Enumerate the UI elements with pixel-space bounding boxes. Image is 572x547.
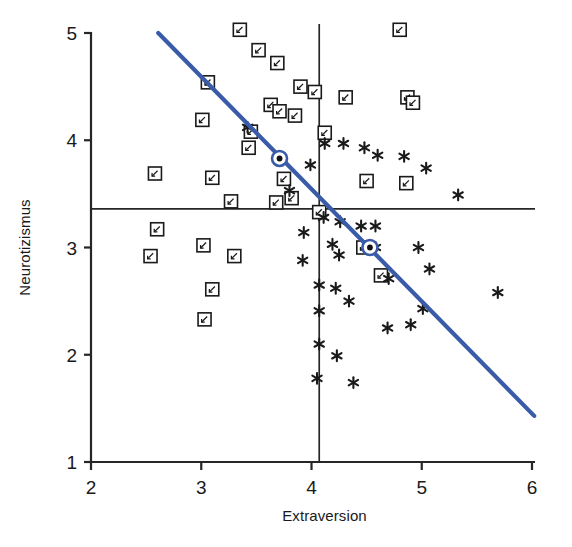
data-point-asterisk bbox=[383, 323, 392, 334]
data-point-square bbox=[197, 239, 210, 252]
highlight-dot bbox=[367, 245, 373, 251]
data-point-asterisk bbox=[356, 221, 365, 232]
data-point-asterisk bbox=[360, 142, 369, 153]
x-tick-label-3: 3 bbox=[196, 477, 207, 498]
y-tick-label-3: 3 bbox=[66, 238, 77, 259]
data-point-asterisk bbox=[349, 377, 358, 388]
plot-canvas: 1234523456 ExtraversionNeurotizismus bbox=[0, 0, 572, 547]
data-point-square bbox=[252, 44, 265, 57]
data-point-asterisk bbox=[315, 305, 324, 316]
y-axis-title: Neurotizismus bbox=[16, 199, 33, 295]
data-point-square bbox=[400, 177, 413, 190]
x-axis-title: Extraversion bbox=[282, 507, 367, 524]
data-point-square bbox=[285, 192, 298, 205]
y-tick-label-4: 4 bbox=[66, 130, 77, 151]
data-point-asterisk bbox=[332, 350, 341, 361]
data-point-asterisk bbox=[421, 163, 430, 174]
data-point-square bbox=[273, 105, 286, 118]
data-point-square bbox=[339, 91, 352, 104]
data-point-asterisk bbox=[339, 138, 348, 149]
data-point-asterisk bbox=[334, 250, 343, 261]
data-point-square bbox=[393, 23, 406, 36]
data-point-asterisk bbox=[453, 190, 462, 201]
data-point-square bbox=[233, 23, 246, 36]
scatter-chart: 1234523456 ExtraversionNeurotizismus bbox=[0, 0, 572, 547]
data-point-square bbox=[206, 171, 219, 184]
data-point-square bbox=[228, 250, 241, 263]
data-point-asterisk bbox=[306, 160, 315, 171]
data-point-square bbox=[271, 57, 284, 70]
data-point-square bbox=[144, 250, 157, 263]
data-point-asterisk bbox=[298, 255, 307, 266]
data-point-asterisk bbox=[315, 339, 324, 350]
data-point-square bbox=[148, 167, 161, 180]
data-point-square bbox=[406, 96, 419, 109]
data-point-square bbox=[360, 175, 373, 188]
data-point-asterisk bbox=[371, 221, 380, 232]
y-tick-label-2: 2 bbox=[66, 345, 77, 366]
data-point-asterisk bbox=[344, 296, 353, 307]
x-tick-label-2: 2 bbox=[86, 477, 97, 498]
data-point-asterisk bbox=[315, 280, 324, 291]
data-point-square bbox=[308, 85, 321, 98]
highlight-dot bbox=[277, 156, 283, 162]
data-point-asterisk bbox=[414, 242, 423, 253]
data-point-asterisk bbox=[493, 287, 502, 298]
data-point-square bbox=[294, 80, 307, 93]
data-point-square bbox=[151, 223, 164, 236]
data-point-square bbox=[225, 195, 238, 208]
data-points-layer bbox=[144, 23, 502, 388]
x-tick-label-6: 6 bbox=[527, 477, 538, 498]
data-point-asterisk bbox=[312, 373, 321, 384]
data-point-asterisk bbox=[299, 227, 308, 238]
data-point-square bbox=[242, 141, 255, 154]
data-point-asterisk bbox=[406, 319, 415, 330]
data-point-square bbox=[206, 283, 219, 296]
data-point-asterisk bbox=[399, 151, 408, 162]
data-point-square bbox=[277, 172, 290, 185]
x-tick-label-5: 5 bbox=[416, 477, 427, 498]
data-point-square bbox=[198, 313, 211, 326]
data-point-asterisk bbox=[331, 283, 340, 294]
data-point-asterisk bbox=[373, 150, 382, 161]
x-tick-label-4: 4 bbox=[306, 477, 317, 498]
data-point-square bbox=[288, 109, 301, 122]
data-point-asterisk bbox=[328, 239, 337, 250]
y-tick-label-1: 1 bbox=[66, 452, 77, 473]
data-point-square bbox=[270, 196, 283, 209]
highlighted-point-1 bbox=[272, 151, 287, 166]
y-tick-label-5: 5 bbox=[66, 23, 77, 44]
highlighted-point-2 bbox=[362, 240, 377, 255]
data-point-asterisk bbox=[425, 264, 434, 275]
data-point-square bbox=[196, 113, 209, 126]
